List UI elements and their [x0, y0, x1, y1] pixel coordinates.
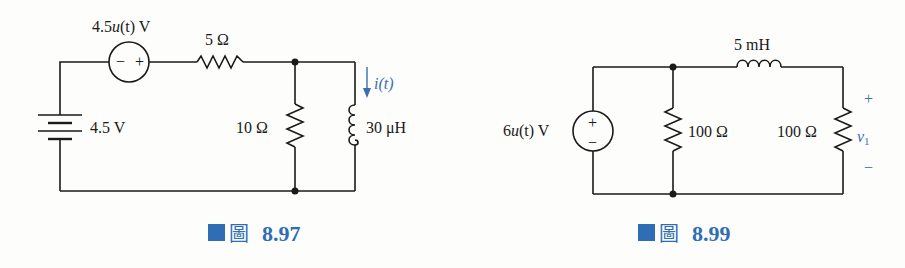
battery-icon — [38, 115, 82, 139]
inductor-30uH-label: 30 μH — [366, 119, 407, 137]
current-arrow-icon — [363, 67, 371, 98]
inductor-30uH-icon — [349, 105, 358, 145]
source-minus-sign: − — [116, 53, 125, 70]
current-label: i(t) — [374, 75, 394, 93]
source-plus-sign: + — [588, 114, 597, 131]
resistor-shunt-icon — [665, 108, 681, 151]
step-source-label: 6u(t) V — [503, 122, 550, 140]
junction-dot — [670, 64, 677, 71]
source-minus-sign: − — [588, 134, 597, 151]
battery-label: 4.5 V — [90, 119, 126, 136]
resistor-10-label: 10 Ω — [236, 119, 268, 136]
junction-dot — [292, 59, 299, 66]
figure-caption-8-97: 8.97 — [262, 221, 301, 246]
voltage-plus-sign: + — [864, 90, 873, 107]
inductor-5mH-icon — [737, 60, 781, 67]
step-source-label: 4.5u(t) V — [92, 18, 151, 36]
resistor-load-icon — [835, 108, 851, 151]
caption-square-icon — [208, 224, 225, 241]
inductor-5mH-label: 5 mH — [734, 36, 770, 53]
caption-square-icon — [638, 224, 655, 241]
circuit-diagrams: 4.5u(t) V − + 5 Ω 4.5 V 10 Ω 30 μH i(t) … — [0, 0, 905, 268]
junction-dot — [292, 188, 299, 195]
resistor-shunt-label: 100 Ω — [688, 123, 728, 140]
resistor-load-label: 100 Ω — [777, 123, 817, 140]
caption-prefix: 圖 — [659, 222, 679, 246]
figure-caption-8-99: 8.99 — [692, 221, 731, 246]
source-plus-sign: + — [135, 53, 144, 70]
junction-dot — [670, 191, 677, 198]
resistor-5-icon — [197, 56, 243, 68]
figure-8-97 — [38, 42, 358, 191]
voltage-minus-sign: − — [864, 159, 873, 176]
resistor-10-icon — [287, 104, 303, 147]
caption-prefix: 圖 — [229, 222, 249, 246]
voltage-label: v1 — [857, 128, 870, 147]
wire — [60, 62, 109, 115]
resistor-5-label: 5 Ω — [205, 31, 229, 48]
